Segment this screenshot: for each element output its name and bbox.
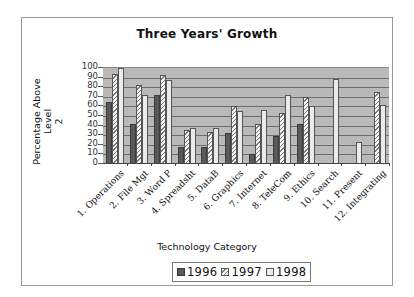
y-tick-label: 50 [76,110,98,119]
x-tick-mark [127,163,128,166]
x-tick-mark [365,163,366,166]
y-tick-label: 40 [76,120,98,129]
y-tick-label: 10 [76,148,98,157]
bar-1998 [190,128,196,164]
x-tick-mark [151,163,152,166]
y-axis-label: Percentage Above Level 2 [31,67,64,177]
legend-label-1997: 1997 [231,265,261,279]
bar-1998 [166,80,172,164]
plot-area [103,67,389,164]
bar-1998 [356,142,362,164]
x-tick-mark [198,163,199,166]
y-tick-label: 70 [76,91,98,100]
legend-item-1996: 1996 [177,265,217,279]
bar-1998 [213,128,219,164]
x-tick-mark [246,163,247,166]
x-axis-title: Technology Category [0,241,414,252]
legend-item-1997: 1997 [221,265,261,279]
legend-label-1996: 1996 [187,265,217,279]
y-tick-label: 20 [76,139,98,148]
bar-1998 [380,105,386,164]
x-tick-mark [294,163,295,166]
bar-1998 [285,95,291,164]
bar-1998 [261,110,267,164]
x-tick-mark [222,163,223,166]
bar-1998 [118,68,124,164]
y-tick-label: 0 [76,158,98,167]
bar-1998 [333,79,339,164]
legend-swatch-1996 [177,268,185,276]
bar-1998 [309,106,315,164]
y-tick-label: 60 [76,100,98,109]
y-tick-label: 80 [76,81,98,90]
y-tick-label: 100 [76,62,98,71]
legend-label-1998: 1998 [276,265,306,279]
x-tick-mark [175,163,176,166]
y-axis-label-line1: Percentage Above Level [31,67,53,177]
chart-title: Three Years' Growth [0,27,414,41]
x-tick-mark [270,163,271,166]
y-tick-label: 90 [76,72,98,81]
legend-swatch-1997 [221,268,229,276]
y-tick-label: 30 [76,129,98,138]
x-tick-mark [341,163,342,166]
gridline [103,78,389,79]
y-axis-label-line2: 2 [53,67,64,177]
bar-1998 [237,111,243,164]
bar-1998 [142,95,148,164]
legend: 1996 1997 1998 [172,262,311,282]
x-tick-mark [389,163,390,166]
legend-swatch-1998 [266,268,274,276]
legend-item-1998: 1998 [266,265,306,279]
gridline [103,87,389,88]
x-tick-mark [318,163,319,166]
